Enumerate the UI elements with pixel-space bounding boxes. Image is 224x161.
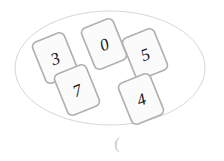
card-0[interactable]: 0 — [80, 17, 128, 71]
paren-caption: ( — [114, 134, 120, 153]
scene-svg: 3 0 5 7 4 ( — [0, 0, 224, 161]
card-5[interactable]: 5 — [121, 27, 169, 81]
scene-canvas: 3 0 5 7 4 ( — [0, 0, 224, 161]
